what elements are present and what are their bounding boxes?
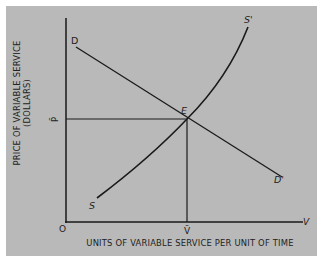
demand-end-label: D' bbox=[274, 174, 284, 185]
x-axis-end-label: V bbox=[303, 217, 310, 227]
supply-curve bbox=[97, 27, 248, 198]
y-axis-title-line2: (DOLLARS) bbox=[22, 79, 32, 127]
supply-demand-diagram: D D' S S' E O V V̄ P̄ PRICE OF VARIABLE … bbox=[0, 0, 326, 262]
demand-curve bbox=[76, 47, 282, 177]
demand-start-label: D bbox=[71, 35, 78, 46]
x-axis-title: UNITS OF VARIABLE SERVICE PER UNIT OF TI… bbox=[86, 238, 293, 248]
y-axis-title-line1: PRICE OF VARIABLE SERVICE bbox=[12, 41, 22, 166]
price-tick-label: P̄ bbox=[49, 117, 60, 122]
origin-label: O bbox=[59, 224, 66, 234]
supply-start-label: S bbox=[89, 200, 95, 211]
quantity-tick-label: V̄ bbox=[184, 225, 191, 236]
supply-end-label: S' bbox=[244, 14, 253, 25]
equilibrium-label: E bbox=[181, 105, 187, 116]
